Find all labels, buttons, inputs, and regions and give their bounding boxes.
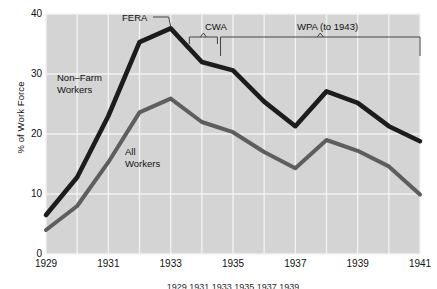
annotation-label-wpa: WPA (to 1943) xyxy=(297,22,358,32)
annotation-label-cwa: CWA xyxy=(205,22,227,32)
series-label-all-workers-line2: Workers xyxy=(125,158,160,170)
chart-canvas xyxy=(0,0,437,289)
series-label-non-farm-line1: Non–Farm xyxy=(57,72,102,84)
series-label-non-farm-line2: Workers xyxy=(57,84,102,96)
series-label-all-workers-line1: All xyxy=(125,146,160,158)
annotation-label-fera: FERA xyxy=(122,13,147,23)
chart-root: % of Work Force 40 30 20 10 0 1929 1931 … xyxy=(0,0,437,289)
figure-caption: 1929 1931 1933 1935 1937 1939 xyxy=(46,282,420,289)
series-label-non-farm-workers: Non–Farm Workers xyxy=(57,72,102,95)
series-label-all-workers: All Workers xyxy=(125,146,160,169)
